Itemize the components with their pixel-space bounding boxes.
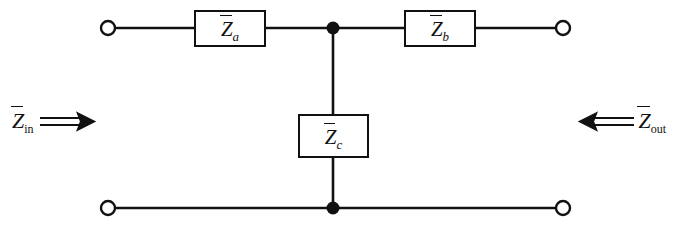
terminal-output-top: [556, 21, 570, 35]
junction-node-top: [327, 22, 340, 35]
zin-subscript: in: [24, 122, 33, 136]
terminal-output-bottom: [556, 201, 570, 215]
circuit-schematic-svg: [0, 0, 674, 226]
terminal-input-bottom: [101, 201, 115, 215]
double-arrow-left-icon: [576, 111, 634, 133]
terminal-input-top: [101, 21, 115, 35]
zout-symbol: Z: [638, 106, 650, 134]
junction-node-bottom: [327, 202, 340, 215]
circuit-diagram-figure: Za Zb Zc Zin Zout: [0, 0, 674, 226]
zb-symbol: Z: [431, 15, 443, 42]
zc-symbol: Z: [325, 123, 337, 150]
zc-subscript: c: [336, 137, 342, 152]
zout-subscript: out: [651, 122, 666, 136]
input-impedance-annotation: Zin: [12, 106, 98, 134]
output-impedance-annotation: Zout: [576, 106, 666, 134]
impedance-label-zb: Zb: [405, 11, 475, 46]
zin-symbol: Z: [12, 106, 24, 134]
impedance-label-za: Za: [195, 11, 265, 46]
impedance-label-zc: Zc: [299, 115, 368, 157]
za-symbol: Z: [221, 15, 233, 42]
za-subscript: a: [233, 29, 240, 44]
double-arrow-right-icon: [40, 111, 98, 133]
zb-subscript: b: [443, 29, 450, 44]
